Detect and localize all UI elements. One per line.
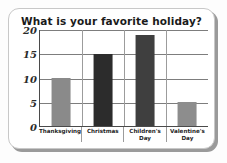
- bar: [178, 102, 197, 126]
- category-label: Valentine's Day: [170, 128, 205, 141]
- y-tick-label: 5: [30, 97, 37, 108]
- chart-screenshot: What is your favorite holiday? 05101520 …: [0, 0, 227, 163]
- plot-area-wrapper: 05101520 ThanksgivingChristmasChildren's…: [18, 30, 208, 142]
- chart-title: What is your favorite holiday?: [9, 15, 214, 27]
- category-label: Children's Day: [129, 128, 161, 141]
- y-tick-label: 20: [23, 25, 37, 36]
- category-label-strip: ThanksgivingChristmasChildren's DayValen…: [39, 127, 208, 142]
- category-cell: Christmas: [82, 127, 124, 142]
- plot-area: [39, 30, 208, 127]
- bar-cell: [82, 30, 124, 126]
- bar-cell: [166, 30, 208, 126]
- category-cell: Children's Day: [124, 127, 166, 142]
- category-label: Thanksgiving: [39, 128, 81, 135]
- y-tick-label: 10: [23, 73, 37, 84]
- bar: [52, 78, 71, 126]
- bar: [136, 35, 155, 126]
- category-cell: Thanksgiving: [39, 127, 82, 142]
- bar-cell: [40, 30, 82, 126]
- y-tick-label: 0: [30, 122, 37, 133]
- category-cell: Valentine's Day: [167, 127, 208, 142]
- bar: [94, 54, 113, 126]
- bar-series: [40, 30, 208, 126]
- bar-cell: [124, 30, 166, 126]
- y-tick-label: 15: [23, 49, 37, 60]
- category-label: Christmas: [87, 128, 119, 135]
- chart-card: What is your favorite holiday? 05101520 …: [8, 8, 215, 149]
- y-axis-tick-labels: 05101520: [18, 30, 39, 127]
